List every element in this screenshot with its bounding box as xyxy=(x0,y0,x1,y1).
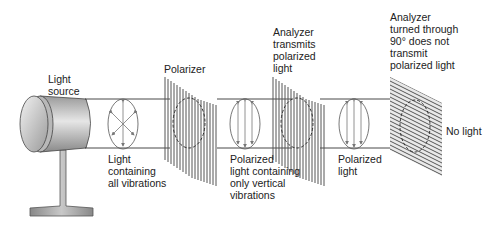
vertical-vibrations-symbol xyxy=(230,99,260,149)
light-source xyxy=(20,96,93,216)
beam-lines xyxy=(85,99,390,148)
polarized-light-symbol xyxy=(339,99,369,149)
crossed-analyzer-grating xyxy=(380,72,450,187)
all-vibrations-symbol xyxy=(108,99,138,149)
label-polarizer: Polarizer xyxy=(164,63,205,75)
label-light-source: Light source xyxy=(48,73,80,97)
stand xyxy=(30,150,93,216)
label-no-light: No light xyxy=(446,125,482,137)
label-vertical-vibrations: Polarized light containing only vertical… xyxy=(230,153,300,201)
label-analyzer-turned: Analyzer turned through 90° does not tra… xyxy=(390,11,458,71)
polarizer-grating xyxy=(165,77,216,186)
label-all-vibrations: Light containing all vibrations xyxy=(108,153,166,189)
label-analyzer-transmits: Analyzer transmits polarized light xyxy=(273,26,316,74)
label-polarized-light: Polarized light xyxy=(338,153,382,177)
